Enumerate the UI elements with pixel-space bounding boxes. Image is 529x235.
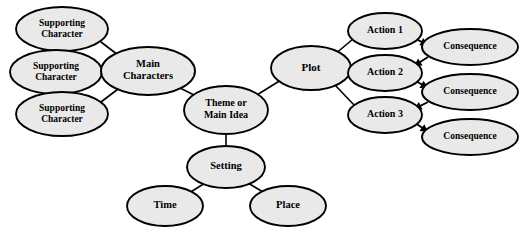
node-action-2[interactable]: Action 2	[348, 55, 422, 91]
node-consequence-1[interactable]: Consequence	[422, 29, 518, 65]
node-label: Consequence	[443, 86, 496, 96]
edge-line	[334, 84, 355, 106]
node-label: Place	[276, 199, 300, 210]
node-label-line1: Theme or	[205, 97, 247, 108]
story-map-canvas: SupportingCharacterSupportingCharacterSu…	[0, 0, 529, 235]
node-label-line1: Supporting	[33, 61, 79, 71]
node-label: Consequence	[443, 41, 496, 51]
story-map-diagram: SupportingCharacterSupportingCharacterSu…	[0, 0, 529, 235]
edge-line	[419, 57, 428, 63]
node-label: Action 1	[367, 24, 403, 35]
edge-plot-to-action-3	[334, 84, 355, 106]
node-action-3[interactable]: Action 3	[348, 97, 422, 133]
nodes-layer: SupportingCharacterSupportingCharacterSu…	[10, 7, 518, 226]
node-label-line2: Main Idea	[204, 109, 248, 120]
node-label-line1: Supporting	[39, 103, 85, 113]
node-consequence-3[interactable]: Consequence	[422, 119, 518, 155]
node-consequence-2[interactable]: Consequence	[422, 74, 518, 110]
node-time[interactable]: Time	[127, 186, 203, 226]
node-supporting-character-3[interactable]: SupportingCharacter	[16, 92, 108, 136]
node-supporting-character-2[interactable]: SupportingCharacter	[10, 50, 102, 94]
node-label-line2: Characters	[123, 70, 173, 81]
node-main-characters[interactable]: MainCharacters	[101, 47, 195, 95]
node-place[interactable]: Place	[250, 186, 326, 226]
node-supporting-character-1[interactable]: SupportingCharacter	[16, 7, 108, 51]
node-theme-or-main-idea[interactable]: Theme orMain Idea	[184, 86, 268, 134]
node-label: Action 2	[367, 66, 403, 77]
node-label-line1: Supporting	[39, 18, 85, 28]
node-plot[interactable]: Plot	[271, 46, 351, 90]
node-label: Time	[153, 199, 176, 210]
node-label-line2: Character	[35, 72, 77, 82]
node-label: Plot	[302, 61, 321, 73]
node-action-1[interactable]: Action 1	[348, 13, 422, 49]
node-label: Setting	[210, 160, 242, 171]
node-setting[interactable]: Setting	[187, 146, 265, 188]
node-label: Action 3	[367, 108, 403, 119]
node-label-line2: Character	[41, 114, 83, 124]
node-label-line2: Character	[41, 29, 83, 39]
node-label-line1: Main	[136, 58, 160, 69]
node-label: Consequence	[443, 131, 496, 141]
